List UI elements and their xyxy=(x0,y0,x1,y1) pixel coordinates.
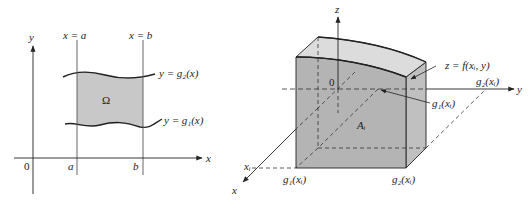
y-axis-label: y xyxy=(28,31,34,43)
label-x-equals-a: x = a xyxy=(62,29,87,41)
left-figure: y x 0 a b x = a x = b y = g₂(x) y = g₁(x… xyxy=(14,29,211,194)
front-face-cross-section xyxy=(296,57,406,168)
y-axis-label-3d: y xyxy=(516,83,522,95)
side-face xyxy=(406,62,426,168)
label-x-equals-b: x = b xyxy=(128,29,153,41)
origin-label-3d: 0 xyxy=(329,76,335,88)
right-figure: z y x 0 z = f(xᵢ, y) Aᵢ g₂(xᵢ) g₁(xᵢ) xᵢ… xyxy=(231,3,522,196)
label-g2-on-axis: g₂(xᵢ) xyxy=(476,75,500,88)
x-axis-label-3d: x xyxy=(231,184,237,196)
label-g1-on-axis: g₁(xᵢ) xyxy=(432,97,456,110)
label-g1: y = g₁(x) xyxy=(163,114,204,127)
diagram-canvas: y x 0 a b x = a x = b y = g₂(x) y = g₁(x… xyxy=(0,0,530,208)
tick-b: b xyxy=(133,160,139,172)
surface-label: z = f(xᵢ, y) xyxy=(444,59,490,72)
x-axis-label: x xyxy=(205,152,211,164)
cross-section-label: Aᵢ xyxy=(356,119,366,131)
label-omega: Ω xyxy=(102,94,110,106)
label-xi: xᵢ xyxy=(243,160,251,172)
origin-label: 0 xyxy=(24,160,30,172)
tick-a: a xyxy=(68,160,74,172)
label-g2: y = g₂(x) xyxy=(158,67,199,80)
label-g1-bottom: g₁(xᵢ) xyxy=(283,173,307,186)
z-axis-label: z xyxy=(334,3,340,15)
label-g2-bottom: g₂(xᵢ) xyxy=(392,173,416,186)
